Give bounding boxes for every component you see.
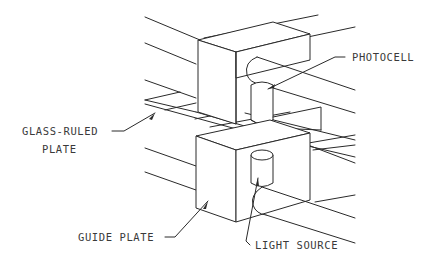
label-light-source: LIGHT SOURCE bbox=[255, 239, 338, 251]
light-source bbox=[251, 150, 273, 187]
label-glass-ruled: GLASS-RULED bbox=[22, 125, 98, 137]
diagram-canvas: PHOTOCELL GLASS-RULED PLATE GUIDE PLATE … bbox=[0, 0, 441, 259]
label-guide-plate: GUIDE PLATE bbox=[78, 231, 154, 243]
label-photocell: PHOTOCELL bbox=[352, 51, 414, 63]
lower-rails bbox=[145, 148, 196, 190]
label-plate: PLATE bbox=[42, 143, 77, 155]
